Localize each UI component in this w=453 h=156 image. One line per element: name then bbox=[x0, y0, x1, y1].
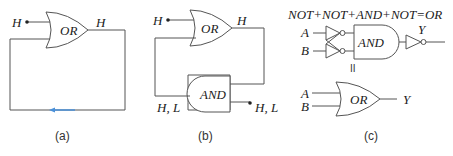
not-bubble-out bbox=[421, 40, 426, 45]
panel-b: H OR H AND H, L H, L (b) bbox=[152, 10, 278, 143]
or-output-label: H bbox=[236, 13, 247, 28]
or-gate-label: OR bbox=[350, 92, 367, 107]
output-label: H bbox=[95, 15, 106, 30]
input-b2-label: B bbox=[301, 99, 309, 114]
equals-symbol: II bbox=[350, 63, 356, 74]
input-terminal bbox=[166, 18, 170, 22]
and-output-label: H, L bbox=[254, 100, 278, 115]
caption-b: (b) bbox=[198, 129, 213, 143]
input-terminal bbox=[25, 20, 29, 24]
output-y-top: Y bbox=[418, 22, 427, 37]
output-terminal bbox=[248, 101, 252, 105]
caption-c: (c) bbox=[364, 129, 378, 143]
caption-a: (a) bbox=[55, 129, 70, 143]
logic-diagram: H OR H (a) H OR H AND H, L H, L (b) NOT+… bbox=[0, 0, 453, 156]
panel-c: NOT+NOT+AND+NOT=OR A B AND Y II A B OR bbox=[287, 7, 445, 143]
input-label: H bbox=[11, 15, 22, 30]
not-gate-out bbox=[406, 35, 421, 49]
equation: NOT+NOT+AND+NOT=OR bbox=[287, 7, 442, 22]
input-label: H bbox=[152, 13, 163, 28]
feedback-label: H, L bbox=[156, 100, 180, 115]
panel-a: H OR H (a) bbox=[10, 12, 125, 143]
arrow-head-icon bbox=[49, 108, 55, 113]
and-gate-label: AND bbox=[357, 35, 385, 50]
and-gate-label: AND bbox=[199, 87, 227, 102]
output-y-bottom: Y bbox=[403, 92, 412, 107]
or-gate-label: OR bbox=[60, 23, 77, 38]
input-b-label: B bbox=[301, 43, 309, 58]
or-to-and-wire bbox=[230, 28, 264, 84]
not-bubble-a bbox=[340, 31, 345, 36]
not-bubble-b bbox=[340, 49, 345, 54]
input-a-label: A bbox=[300, 25, 309, 40]
or-gate-label: OR bbox=[201, 21, 218, 36]
